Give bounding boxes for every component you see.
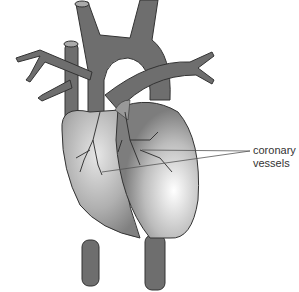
heart-diagram: coronary vessels [0, 0, 299, 292]
label-line-1: coronary [253, 144, 296, 157]
coronary-vessels-label: coronary vessels [253, 144, 296, 170]
label-line-2: vessels [253, 157, 296, 170]
